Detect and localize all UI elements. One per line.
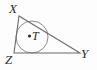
vertex-label-y: Y: [81, 47, 88, 60]
vertex-label-z: Z: [5, 53, 12, 66]
incenter-label-t: T: [32, 30, 39, 42]
vertex-label-x: X: [9, 2, 17, 15]
incenter-dot: [28, 34, 31, 37]
geometry-figure: X Z Y T: [0, 0, 97, 70]
triangle-xyz: [14, 16, 80, 53]
